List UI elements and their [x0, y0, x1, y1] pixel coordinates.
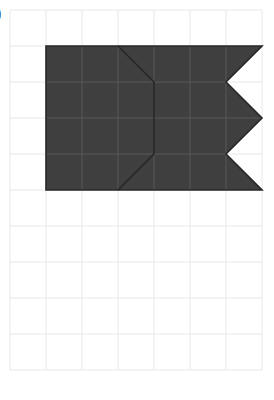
grid-figure-svg [0, 0, 274, 400]
figure-container: ) [0, 0, 274, 400]
